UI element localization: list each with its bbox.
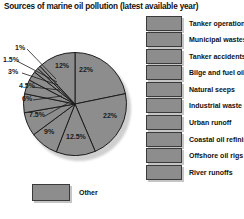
legend-item-tanker-accidents[interactable]: Tanker accidents	[146, 49, 244, 63]
chart-legend: Tanker operations Municipal wastes Tanke…	[146, 16, 244, 179]
legend-swatch-icon	[146, 82, 182, 97]
slice-label-river-runoffs: 1%	[15, 44, 25, 51]
pie-area	[23, 52, 127, 156]
slice-label-offshore-oil-rigs: 1.5%	[3, 56, 19, 63]
legend-label: Urban runoff	[189, 119, 231, 126]
slice-label-coastal-oil-refining: 3%	[8, 68, 18, 75]
legend-label: River runoffs	[189, 169, 233, 176]
pie-slices	[23, 52, 127, 156]
legend-label: Coastal oil refining	[189, 136, 244, 143]
slice-label-bilge-and-fuel-oils: 9%	[44, 128, 54, 135]
legend-swatch-icon	[146, 165, 182, 180]
legend-swatch-icon	[146, 32, 182, 47]
legend-swatch-icon	[146, 115, 182, 130]
slice-label-tanker-accidents: 12.5%	[66, 133, 86, 140]
legend-label: Natural seeps	[189, 86, 235, 93]
chart-title: Sources of marine oil pollution (latest …	[4, 2, 198, 11]
slice-label-natural-seeps: 7.5%	[29, 111, 45, 118]
legend-swatch-icon	[146, 49, 182, 64]
legend-item-coastal-oil-refining[interactable]: Coastal oil refining	[146, 132, 244, 146]
pie-chart-figure: Sources of marine oil pollution (latest …	[0, 0, 244, 219]
legend-item-offshore-oil-rigs[interactable]: Offshore oil rigs	[146, 149, 244, 163]
legend-swatch-icon	[146, 98, 182, 113]
slice-label-tanker-operations: 22%	[79, 66, 93, 73]
legend-item-industrial-waste[interactable]: Industrial waste	[146, 99, 244, 113]
legend-item-river-runoffs[interactable]: River runoffs	[146, 165, 244, 179]
legend-item-municipal-wastes[interactable]: Municipal wastes	[146, 33, 244, 47]
legend-swatch-icon	[146, 65, 182, 80]
slice-label-municipal-wastes: 22%	[103, 112, 117, 119]
legend-swatch-icon	[32, 184, 70, 201]
legend-item-urban-runoff[interactable]: Urban runoff	[146, 116, 244, 130]
slice-label-industrial-waste: 6%	[22, 95, 32, 102]
legend-item-tanker-operations[interactable]: Tanker operations	[146, 16, 244, 30]
slice-label-urban-runoff: 4.5%	[19, 82, 35, 89]
legend-label: Bilge and fuel oils	[189, 69, 244, 76]
legend-item-other[interactable]: Other	[32, 184, 98, 201]
legend-label: Industrial waste	[189, 102, 242, 109]
legend-label: Offshore oil rigs	[189, 152, 243, 159]
legend-swatch-icon	[146, 16, 182, 31]
legend-item-natural-seeps[interactable]: Natural seeps	[146, 82, 244, 96]
legend-label: Other	[79, 189, 98, 196]
legend-label: Tanker accidents	[189, 53, 244, 60]
legend-item-bilge-and-fuel-oils[interactable]: Bilge and fuel oils	[146, 66, 244, 80]
legend-swatch-icon	[146, 132, 182, 147]
legend-label: Tanker operations	[189, 20, 244, 27]
legend-swatch-icon	[146, 148, 182, 163]
slice-label-other: 12%	[55, 62, 69, 69]
legend-label: Municipal wastes	[189, 36, 244, 43]
